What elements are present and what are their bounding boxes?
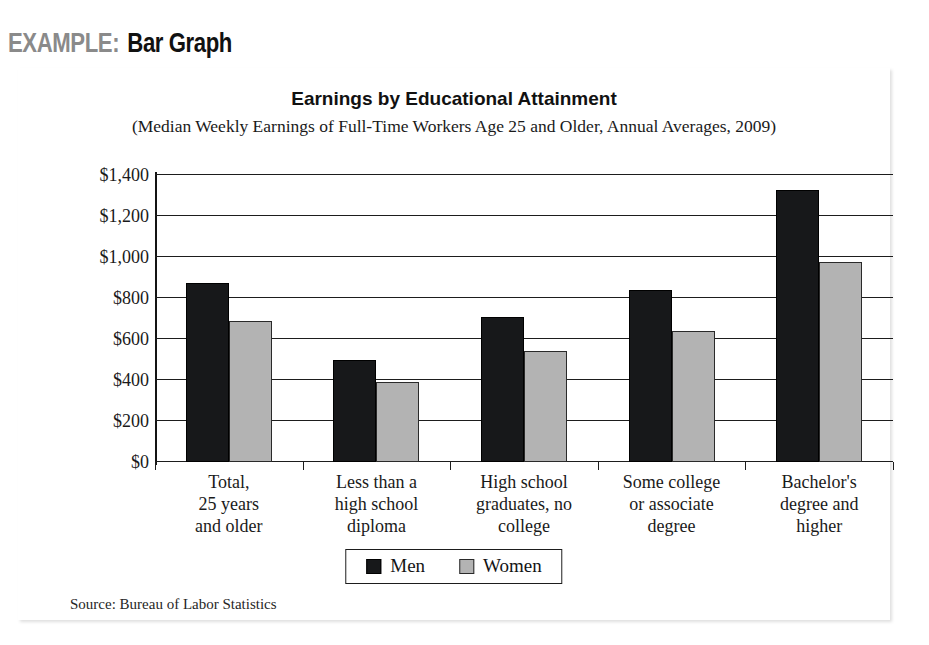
x-axis-label-line: degree and: [745, 493, 893, 515]
x-axis-tick: [893, 462, 894, 470]
bar-men: [333, 360, 376, 463]
y-axis-tick-label: $0: [29, 452, 149, 473]
legend-entry-women: Women: [459, 555, 542, 577]
x-axis-tick: [598, 462, 599, 470]
chart-title: Earnings by Educational Attainment: [18, 88, 890, 110]
source-note: Source: Bureau of Labor Statistics: [70, 596, 277, 613]
y-axis-tick-label: $800: [29, 288, 149, 309]
example-header: EXAMPLE:Bar Graph: [8, 28, 232, 59]
chart-type-label: Bar Graph: [127, 28, 232, 58]
legend-swatch-icon: [366, 559, 381, 574]
x-axis-category-label: Total,25 yearsand older: [155, 471, 303, 537]
bar-men: [776, 190, 819, 462]
x-axis-label-line: higher: [745, 515, 893, 537]
bar-men: [481, 317, 524, 462]
chart-legend: MenWomen: [345, 549, 562, 584]
x-axis-label-line: Less than a: [303, 471, 451, 493]
x-axis-label-line: Bachelor's: [745, 471, 893, 493]
x-axis-label-line: Some college: [598, 471, 746, 493]
y-axis-tick-label: $1,000: [29, 247, 149, 268]
gridline: [155, 174, 893, 175]
y-axis-tick-label: $400: [29, 370, 149, 391]
bar-women: [672, 331, 715, 462]
x-axis-category-label: Less than ahigh schooldiploma: [303, 471, 451, 537]
bar-women: [229, 321, 272, 462]
bar-men: [186, 283, 229, 462]
x-axis-label-line: or associate: [598, 493, 746, 515]
x-axis-category-label: Bachelor'sdegree andhigher: [745, 471, 893, 537]
bar-men: [629, 290, 672, 462]
chart-subtitle: (Median Weekly Earnings of Full-Time Wor…: [18, 116, 890, 137]
x-axis-tick: [155, 462, 156, 470]
y-axis-tick-label: $600: [29, 329, 149, 350]
x-axis-label-line: and older: [155, 515, 303, 537]
x-axis-label-line: high school: [303, 493, 451, 515]
example-label: EXAMPLE:: [8, 28, 119, 58]
x-axis-label-line: degree: [598, 515, 746, 537]
legend-entry-men: Men: [366, 555, 425, 577]
x-axis-category-label: Some collegeor associatedegree: [598, 471, 746, 537]
x-axis-label-line: graduates, no: [450, 493, 598, 515]
x-axis-label-line: college: [450, 515, 598, 537]
x-axis-tick: [745, 462, 746, 470]
bar-women: [524, 351, 567, 462]
y-axis-tick-label: $1,200: [29, 206, 149, 227]
x-axis-label-line: Total,: [155, 471, 303, 493]
x-axis-label-line: High school: [450, 471, 598, 493]
x-axis-label-line: 25 years: [155, 493, 303, 515]
plot-area: $0$200$400$600$800$1,000$1,200$1,400 Tot…: [155, 175, 893, 462]
figure-panel: Earnings by Educational Attainment (Medi…: [18, 68, 890, 620]
x-axis-tick: [303, 462, 304, 470]
y-axis-tick-label: $1,400: [29, 165, 149, 186]
legend-label: Men: [390, 555, 425, 577]
bar-women: [376, 382, 419, 462]
legend-label: Women: [483, 555, 542, 577]
x-axis-category-label: High schoolgraduates, nocollege: [450, 471, 598, 537]
x-axis-label-line: diploma: [303, 515, 451, 537]
x-axis-tick: [450, 462, 451, 470]
legend-swatch-icon: [459, 559, 474, 574]
y-axis-tick-label: $200: [29, 411, 149, 432]
bar-women: [819, 262, 862, 462]
